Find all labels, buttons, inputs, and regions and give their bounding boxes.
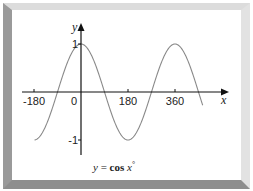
y-tick-label: -1	[68, 134, 78, 146]
x-tick-label: 360	[166, 95, 184, 107]
y-axis-label: y	[71, 20, 78, 34]
x-axis-label: x	[220, 93, 227, 107]
x-tick-label: 0	[71, 95, 77, 107]
x-tick-label: -180	[23, 95, 45, 107]
y-tick-label: 1	[72, 38, 78, 50]
caption-eq: =	[98, 161, 110, 173]
chart-caption: y = cos x°	[92, 160, 135, 173]
y-axis-arrow-icon	[78, 23, 85, 31]
x-tick-label: 180	[119, 95, 137, 107]
cosine-chart: -18001803601-1 y x y = cos x°	[0, 0, 253, 191]
caption-degree: °	[132, 160, 135, 169]
caption-fn: cos	[110, 161, 125, 173]
y-axis	[78, 23, 85, 155]
